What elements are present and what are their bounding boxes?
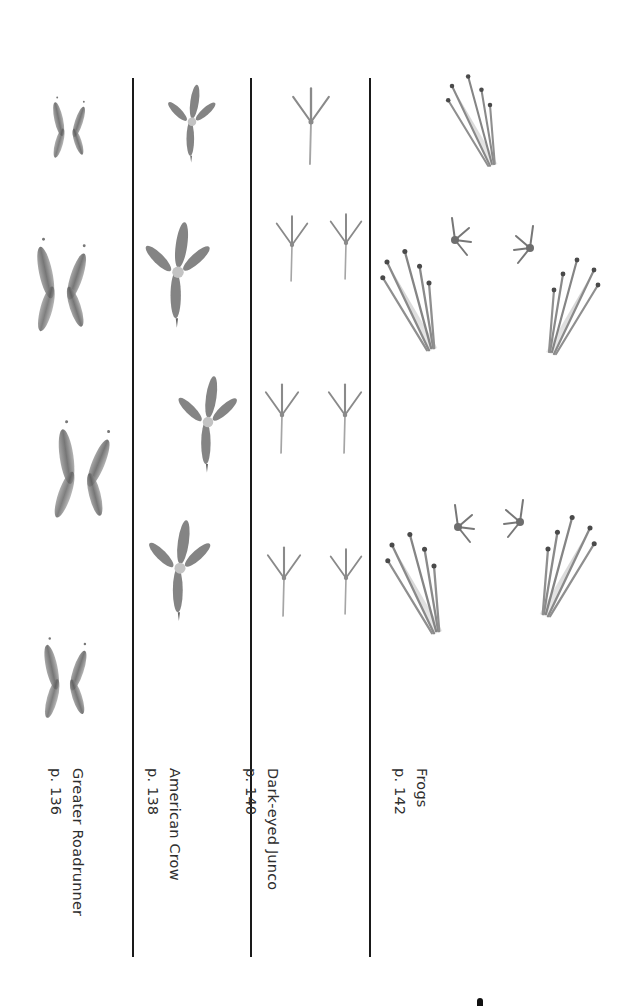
track-illustrations bbox=[0, 0, 629, 1006]
species-name: Frogs bbox=[411, 768, 433, 815]
frog-tracks bbox=[380, 74, 600, 634]
species-name: Dark-eyed Junco bbox=[262, 768, 284, 890]
junco-tracks bbox=[266, 88, 361, 616]
label-dark-eyed-junco: Dark-eyed Junco p. 140 bbox=[240, 768, 284, 890]
column-divider bbox=[132, 78, 134, 957]
page-reference: p. 142 bbox=[389, 768, 411, 815]
label-frogs: Frogs p. 142 bbox=[389, 768, 433, 815]
roadrunner-tracks bbox=[34, 97, 115, 720]
page-reference: p. 136 bbox=[45, 768, 67, 916]
page-edge-mark bbox=[477, 998, 483, 1006]
label-greater-roadrunner: Greater Roadrunner p. 136 bbox=[45, 768, 89, 916]
species-name: American Crow bbox=[164, 768, 186, 881]
page-reference: p. 140 bbox=[240, 768, 262, 890]
label-american-crow: American Crow p. 138 bbox=[142, 768, 186, 881]
page-reference: p. 138 bbox=[142, 768, 164, 881]
track-plate: Greater Roadrunner p. 136 American Crow … bbox=[0, 0, 629, 1006]
crow-tracks bbox=[143, 84, 240, 621]
column-divider bbox=[369, 78, 371, 957]
species-name: Greater Roadrunner bbox=[67, 768, 89, 916]
